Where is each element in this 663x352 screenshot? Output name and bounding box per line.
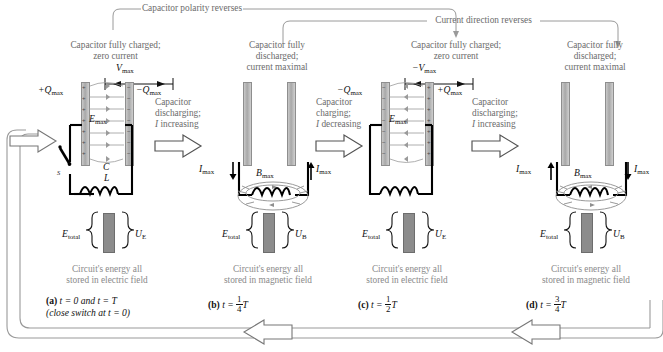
bottom-return-arrow-left-icon xyxy=(236,320,306,346)
bottom-return-loop xyxy=(0,0,663,352)
bottom-return-arrow-right-icon xyxy=(504,320,574,346)
cycle-entry-arrow-icon xyxy=(8,128,68,158)
lc-oscillation-figure: Capacitor polarity reverses Current dire… xyxy=(0,0,663,352)
